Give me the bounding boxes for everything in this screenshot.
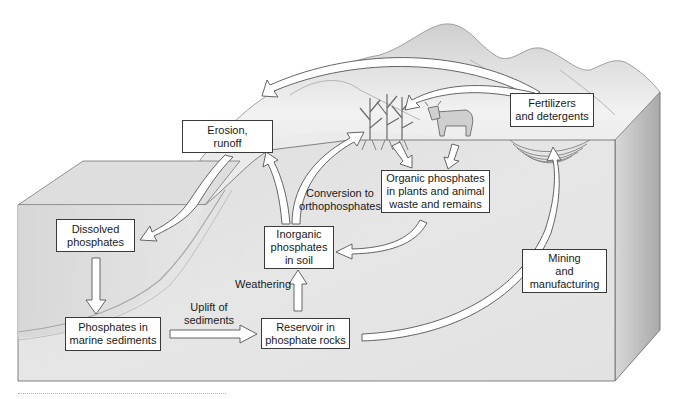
dotted-rule xyxy=(18,393,226,394)
node-dissolved-phosphates: Dissolved phosphates xyxy=(56,219,135,252)
node-reservoir-rocks: Reservoir in phosphate rocks xyxy=(261,318,350,349)
node-erosion-runoff: Erosion, runoff xyxy=(182,120,273,153)
node-mining-manufacturing: Mining and manufacturing xyxy=(522,249,607,293)
node-marine-sediments: Phosphates in marine sediments xyxy=(65,317,161,351)
label-conversion-orthophosphates: Conversion to orthophosphates xyxy=(298,187,382,213)
cube-side-face xyxy=(615,92,660,381)
node-inorganic-phosphates: Inorganic phosphates in soil xyxy=(264,226,334,269)
node-organic-phosphates: Organic phosphates in plants and animal … xyxy=(381,170,490,213)
node-fertilizers-detergents: Fertilizers and detergents xyxy=(510,93,594,127)
label-weathering: Weathering xyxy=(234,278,292,291)
label-uplift-sediments: Uplift of sediments xyxy=(180,301,238,327)
